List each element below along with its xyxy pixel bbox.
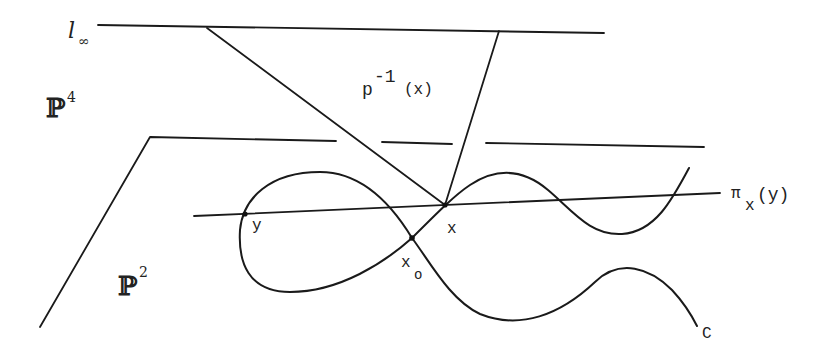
label-projection-sub: x: [745, 197, 755, 215]
point-y-marker: [242, 211, 247, 216]
projective-geometry-diagram: l ∞ ℙ 4 ℙ 2 p -1 (x) π x (y) x y x o C: [0, 0, 836, 357]
label-point-x0-sub: o: [414, 267, 422, 283]
label-fiber-arg: (x): [404, 81, 433, 99]
fiber-line-left: [207, 28, 445, 205]
fiber-line-right: [445, 31, 499, 205]
label-point-x: x: [447, 220, 457, 238]
plane-top-edge-segment-2: [382, 142, 452, 144]
label-projection-arg: (y): [757, 185, 789, 205]
label-projection: π: [731, 185, 741, 203]
plane-left-edge: [40, 137, 336, 327]
point-x-marker: [442, 202, 447, 207]
plane-top-edge-segment-3: [486, 143, 704, 147]
label-plane-sup: 2: [139, 264, 148, 280]
label-line-at-infinity-sub: ∞: [78, 33, 90, 49]
projection-line: [194, 193, 720, 216]
label-ambient-space-sup: 4: [67, 89, 76, 105]
label-ambient-space: ℙ: [46, 93, 66, 123]
line-at-infinity: [98, 25, 604, 33]
label-curve-c: C: [702, 325, 712, 343]
label-point-y: y: [252, 217, 262, 235]
label-point-x0: x: [401, 254, 411, 272]
point-x0-marker: [409, 235, 415, 241]
label-line-at-infinity: l: [68, 18, 75, 43]
label-fiber-sup: -1: [374, 67, 396, 87]
curve-c: [240, 168, 697, 326]
label-fiber: p: [362, 80, 373, 100]
label-plane: ℙ: [118, 271, 138, 301]
